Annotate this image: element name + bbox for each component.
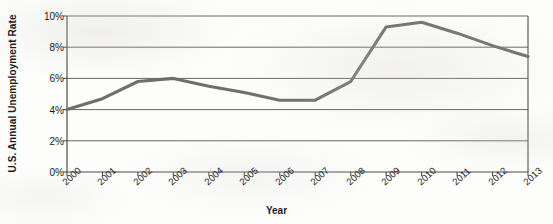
x-tick-label: 2011 [450,165,473,187]
x-tick-label: 2008 [344,165,367,187]
x-tick-label: 2012 [486,165,509,187]
x-tick-label: 2006 [273,165,296,187]
x-axis-title: Year [0,205,553,216]
x-tick-label: 2010 [415,165,438,187]
x-tick-label: 2013 [521,165,544,187]
x-tick-label: 2003 [166,165,189,187]
x-tick-label: 2007 [308,165,331,187]
x-axis-tick-labels: 2000200120022003200420052006200720082009… [0,0,553,224]
x-tick-label: 2004 [202,165,225,187]
unemployment-rate-line-chart: U.S. Annual Unemployment Rate 0%2%4%6%8%… [0,0,553,224]
x-tick-label: 2002 [131,165,154,187]
x-tick-label: 2009 [379,165,402,187]
x-tick-label: 2000 [60,165,83,187]
x-tick-label: 2005 [237,165,260,187]
x-tick-label: 2001 [95,165,118,187]
